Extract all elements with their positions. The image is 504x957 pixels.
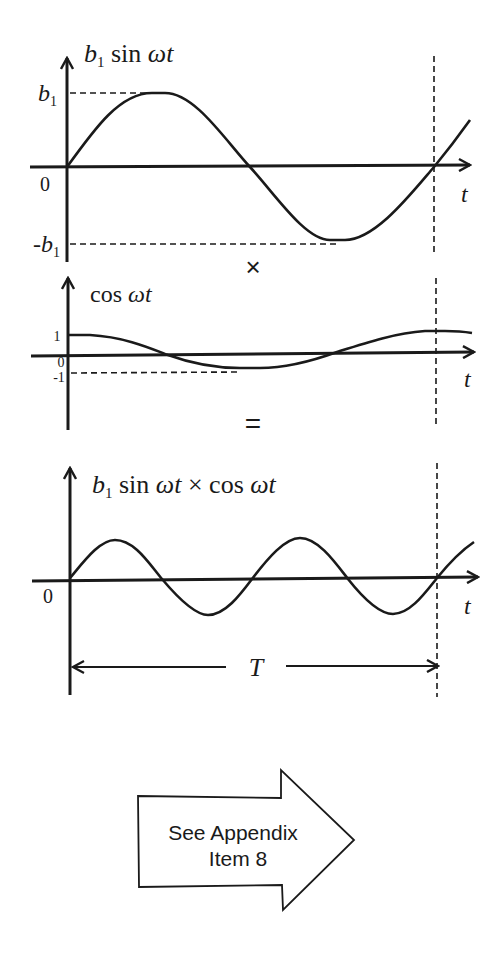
period-label: T	[249, 653, 265, 682]
sine-origin-label: 0	[40, 173, 50, 195]
callout-line2: Item 8	[209, 847, 267, 870]
sine-ytick-bottom: -b1	[33, 231, 60, 260]
product-origin-label: 0	[43, 585, 53, 607]
see-appendix-callout[interactable]: See Appendix Item 8	[138, 770, 354, 910]
cosine-title: cos ωt	[90, 281, 153, 307]
cosine-min-guide	[71, 372, 240, 373]
product-x-label: t	[464, 593, 472, 619]
sine-ytick-top: b1	[38, 80, 57, 109]
cosine-x-axis	[31, 352, 474, 356]
cosine-x-label: t	[464, 366, 472, 392]
callout-line1: See Appendix	[168, 821, 298, 844]
cosine-ytick-bottom: -1	[53, 370, 65, 385]
diagram-canvas: b1 sin ωt b1 -b1 0 t × cos ωt 1 0 -1 t =	[0, 0, 504, 957]
sine-panel: b1 sin ωt b1 -b1 0 t	[30, 39, 470, 262]
cosine-ytick-top: 1	[54, 329, 61, 344]
sine-x-label: t	[461, 181, 469, 207]
equals-operator: =	[245, 408, 261, 439]
cosine-ytick-zero: 0	[58, 355, 65, 370]
sine-title: b1 sin ωt	[84, 39, 174, 70]
product-panel: b1 sin ωt × cos ωt 0 t T	[32, 463, 478, 697]
product-x-axis	[32, 577, 478, 581]
product-title: b1 sin ωt × cos ωt	[92, 470, 277, 501]
multiply-operator: ×	[245, 252, 260, 282]
cosine-curve	[68, 331, 472, 368]
